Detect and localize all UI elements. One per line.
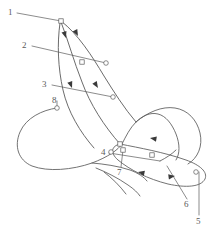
callout-label-3: 3 (42, 80, 47, 89)
callout-label-7: 7 (117, 168, 122, 177)
node-marker-n-mid-left (80, 60, 84, 64)
leg-hind-path (104, 172, 126, 194)
node-marker-n-thorax (121, 148, 125, 152)
leader-line-7 (121, 150, 123, 167)
callout-label-1: 1 (8, 8, 13, 17)
callout-label-5: 5 (196, 217, 201, 226)
callout-label-6: 6 (184, 200, 189, 209)
abdomen-outline-path (136, 108, 201, 164)
callout-label-8: 8 (52, 96, 57, 105)
direction-arrowheads (62, 29, 176, 179)
arrowhead-a4 (92, 81, 100, 89)
node-marker-n-mid-right (104, 61, 109, 66)
callout-label-2: 2 (22, 41, 27, 50)
figure-root: 12384765 (0, 0, 220, 236)
leader-line-2 (32, 46, 106, 63)
stroke-arc-outer-path (61, 21, 136, 122)
body-outline-path (17, 108, 122, 170)
node-marker-n-wing-tip (194, 170, 199, 175)
leader-line-6 (167, 166, 187, 199)
antenna-path (160, 150, 176, 161)
leader-line-3 (52, 85, 113, 97)
stroke-arc-left-path (58, 23, 94, 148)
arrowhead-a5 (150, 135, 157, 141)
node-marker-n-wing-mid (150, 153, 154, 157)
node-marker-n-leg-joint (109, 150, 114, 155)
node-marker-n-top (59, 19, 63, 23)
arrowhead-a1 (62, 31, 69, 39)
leader-line-1 (17, 13, 61, 21)
wing-loop-path (113, 144, 206, 186)
node-marker-n-wing-root (118, 142, 122, 146)
callout-label-4: 4 (101, 148, 106, 157)
node-marker-n-cross (111, 95, 116, 100)
joint-markers (55, 19, 199, 175)
arrowhead-a3 (67, 81, 74, 89)
node-marker-n-body-top (55, 106, 60, 111)
